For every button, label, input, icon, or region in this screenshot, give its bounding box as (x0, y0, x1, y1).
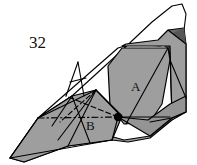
origami-figure-container: 32 A B (0, 0, 197, 165)
face-label-b: B (86, 118, 95, 133)
origami-diagram-svg: 32 A B (0, 0, 197, 165)
marker-dots-group (114, 113, 122, 121)
filled-shapes-group (10, 4, 186, 162)
gray-lower-left-panel (10, 90, 122, 162)
step-number-label: 32 (29, 33, 46, 52)
pivot-dot (114, 113, 122, 121)
face-label-a: A (131, 79, 141, 94)
